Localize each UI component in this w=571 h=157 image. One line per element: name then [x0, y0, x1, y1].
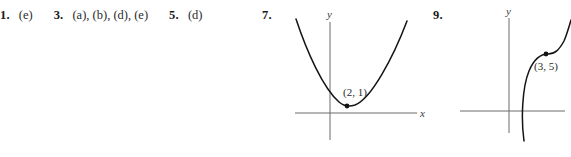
- x-axis-label: x: [419, 107, 425, 119]
- cubic-graph: y (3, 5): [455, 0, 571, 150]
- y-axis-label: y: [326, 8, 332, 20]
- vertex-point-marker: [345, 104, 350, 109]
- figure-number-7: 7.: [262, 8, 272, 23]
- y-axis-label: y: [505, 5, 511, 17]
- vertex-point-label: (2, 1): [343, 86, 367, 99]
- parabola-graph: y x (2, 1): [285, 0, 430, 145]
- cubic-curve: [522, 20, 571, 141]
- figure-7: 7. y x (2, 1): [0, 0, 430, 157]
- answer-key-page: 1. (e) 3. (a), (b), (d), (e) 5. (d) 7. y…: [0, 0, 571, 157]
- figure-9: 9. y (3, 5): [430, 0, 571, 157]
- figure-number-9: 9.: [433, 8, 443, 23]
- inflection-point-marker: [544, 52, 549, 57]
- inflection-point-label: (3, 5): [534, 60, 558, 73]
